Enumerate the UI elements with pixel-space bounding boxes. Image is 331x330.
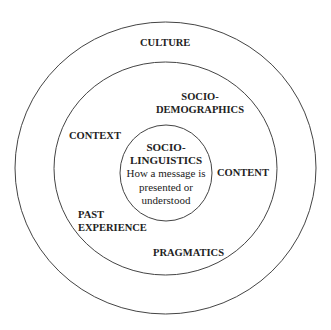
label-sociodemographics-line1: SOCIO- bbox=[153, 90, 247, 103]
label-sociolinguistics-line1: SOCIO- bbox=[120, 141, 212, 154]
description-line3: understood bbox=[120, 194, 212, 208]
label-sociolinguistics-line2: LINGUISTICS bbox=[120, 154, 212, 167]
label-culture: CULTURE bbox=[140, 36, 190, 49]
label-past-experience-line2: EXPERIENCE bbox=[78, 221, 147, 234]
label-pragmatics: PRAGMATICS bbox=[153, 246, 224, 259]
inner-circle-text: SOCIO- LINGUISTICS How a message is pres… bbox=[120, 141, 212, 208]
label-past-experience: PAST EXPERIENCE bbox=[78, 208, 147, 234]
description-line1: How a message is bbox=[120, 167, 212, 181]
label-sociodemographics-line2: DEMOGRAPHICS bbox=[153, 103, 247, 116]
label-content: CONTENT bbox=[217, 166, 269, 179]
label-past-experience-line1: PAST bbox=[78, 208, 147, 221]
description-line2: presented or bbox=[120, 181, 212, 195]
label-context: CONTEXT bbox=[69, 129, 121, 142]
label-sociodemographics: SOCIO- DEMOGRAPHICS bbox=[153, 90, 247, 116]
concentric-diagram: CULTURE SOCIO- DEMOGRAPHICS CONTEXT CONT… bbox=[0, 0, 331, 330]
